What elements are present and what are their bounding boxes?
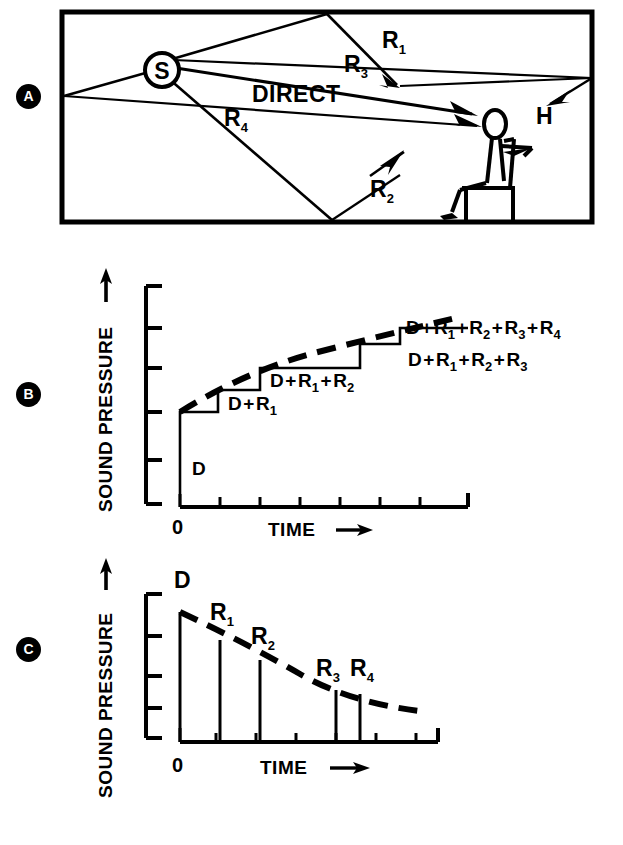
panel-b-step-label-2: D + R1 + R2 [270,370,354,395]
listener-arm-upper [501,146,532,148]
direct-label: DIRECT [252,81,341,107]
panel-b-x-axis [180,493,468,507]
ray-label-r4-subscript: 4 [241,120,249,135]
ray-label-r3-subscript: 3 [361,66,368,81]
panel-c-spike-label-r1: R1 [210,599,234,629]
panel-marker-a: A [16,84,41,109]
panel-c-origin-label: 0 [172,754,183,776]
listener-label-h: H [536,103,553,129]
panel-c-y-axis-arrow [100,558,112,590]
panel-c-spike-label-r2: R2 [251,623,275,653]
panel-a-room-diagram: S R1 R3 DI [52,0,612,245]
panel-c-spike-label-r4: R4 [350,655,375,685]
panel-c-y-axis-label: SOUND PRESSURE [95,613,116,798]
panel-b-step-label-4: D + R1 + R2 + R3 + R4 [406,317,561,342]
panel-b-x-axis-arrow [336,524,373,536]
ray-label-r2-subscript: 2 [387,191,394,206]
figure-root: A S [0,0,623,845]
source-label: S [154,58,169,84]
panel-b-y-axis [146,286,162,504]
panel-b-step-label-0: D [192,458,206,479]
panel-c-y-axis [146,594,162,738]
chair-back-top [504,139,514,141]
panel-c-x-axis-arrow [330,762,370,774]
panel-b-origin-label: 0 [172,516,183,538]
panel-c-spike-label-d: D [174,567,191,593]
panel-b-y-axis-arrow [100,268,112,302]
panel-marker-b: B [16,382,41,407]
panel-b-x-axis-label: TIME [268,519,315,540]
panel-c-decay-chart: SOUND PRESSURE [88,548,548,808]
panel-b-step-label-1: D + R1 [228,393,277,418]
panel-c-envelope-dashed [180,612,428,712]
panel-c-spike-label-r3: R3 [316,655,340,685]
panel-b-y-axis-label: SOUND PRESSURE [95,327,116,512]
panel-b-buildup-chart: SOUND PRESSURE [88,262,623,542]
ray-label-r1-subscript: 1 [399,42,406,57]
panel-b-step-label-3: D + R1 + R2 + R3 [408,349,527,374]
panel-c-x-axis-label: TIME [260,757,307,778]
listener-head [484,110,506,138]
panel-marker-c: C [16,637,41,662]
